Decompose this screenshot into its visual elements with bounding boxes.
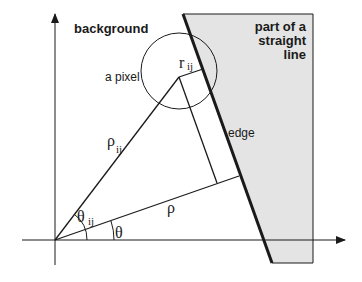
theta-ij-subscript: ij <box>88 215 94 227</box>
rho-ij-subscript: ij <box>116 143 122 155</box>
rho-ij-label: ρ <box>107 132 115 150</box>
region-label-line3: line <box>284 47 306 62</box>
r-ij-subscript: ij <box>187 60 193 72</box>
theta-label: θ <box>115 224 123 241</box>
rho-label: ρ <box>167 199 175 217</box>
r-ij-label: r <box>179 54 185 71</box>
background-label: background <box>74 21 148 36</box>
region-label-line1: part of a <box>255 19 307 34</box>
edge-geometry-diagram: background part of a straight line a pix… <box>0 0 362 282</box>
region-label-line2: straight <box>258 33 306 48</box>
pixel-label: a pixel <box>105 70 140 84</box>
theta-arc <box>111 221 114 240</box>
edge-label: edge <box>228 126 255 140</box>
theta-ij-label: θ <box>77 208 85 225</box>
rho-ij-line <box>55 77 179 240</box>
